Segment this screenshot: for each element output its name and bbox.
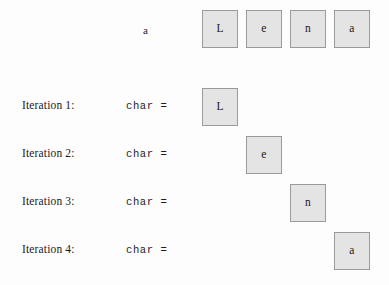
string-cell-1: e	[246, 10, 282, 48]
iteration-char-glyph: a	[349, 245, 354, 257]
iteration-char-cell-2: e	[246, 136, 282, 174]
string-cell-2: n	[290, 10, 326, 48]
iteration-char-glyph: L	[216, 101, 223, 113]
iteration-label-2: Iteration 2:	[22, 147, 75, 159]
string-cell-glyph: a	[349, 23, 354, 35]
iteration-char-cell-3: n	[290, 184, 326, 222]
char-assignment-3: char =	[126, 196, 167, 208]
string-cell-0: L	[202, 10, 238, 48]
iteration-char-glyph: e	[261, 149, 266, 161]
char-assignment-1: char =	[126, 100, 167, 112]
string-cell-3: a	[334, 10, 370, 48]
iteration-char-cell-4: a	[334, 232, 370, 270]
char-assignment-2: char =	[126, 148, 167, 160]
iteration-label-3: Iteration 3:	[22, 195, 75, 207]
iteration-char-cell-1: L	[202, 88, 238, 126]
iteration-label-4: Iteration 4:	[22, 243, 75, 255]
iteration-char-glyph: n	[305, 197, 311, 209]
string-cell-glyph: e	[261, 23, 266, 35]
figure-canvas: a Lena Iteration 1:char =LIteration 2:ch…	[0, 0, 389, 285]
string-cell-glyph: L	[216, 23, 223, 35]
array-variable-label: a	[143, 24, 148, 36]
iteration-label-1: Iteration 1:	[22, 99, 75, 111]
string-cell-glyph: n	[305, 23, 311, 35]
char-assignment-4: char =	[126, 244, 167, 256]
